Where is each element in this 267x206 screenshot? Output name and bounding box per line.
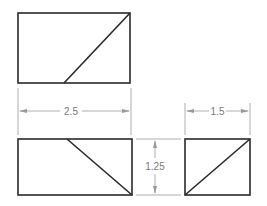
front-view	[18, 139, 132, 195]
arrowhead-icon	[153, 186, 157, 194]
top-view	[18, 13, 130, 83]
dimension-label-2-5: 2.5	[64, 106, 78, 117]
arrowhead-icon	[153, 140, 157, 148]
side-view-diagonal	[185, 139, 250, 195]
dimension-1-25: 1.25	[136, 139, 181, 195]
dimension-1-5: 1.5	[185, 103, 250, 135]
arrowhead-icon	[19, 109, 27, 113]
arrowhead-icon	[241, 109, 249, 113]
dimension-label-1-25: 1.25	[145, 161, 165, 172]
arrowhead-icon	[186, 109, 194, 113]
dimension-2-5: 2.5	[18, 88, 131, 135]
arrowhead-icon	[122, 109, 130, 113]
side-view	[185, 139, 250, 195]
front-view-outline	[18, 139, 132, 195]
orthographic-drawing: 2.5 1.25 1.5	[0, 0, 267, 206]
dimension-label-1-5: 1.5	[211, 106, 225, 117]
front-view-diagonal	[67, 139, 132, 195]
top-view-diagonal	[64, 13, 130, 83]
